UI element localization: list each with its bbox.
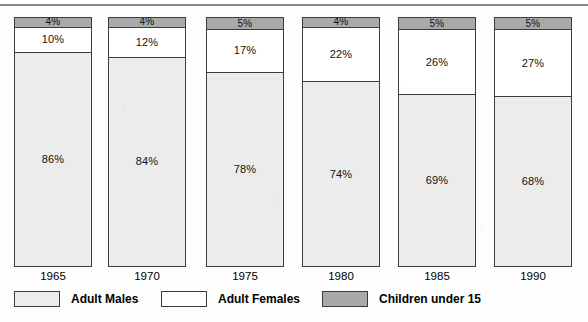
- segment-children-1980[interactable]: 4%: [303, 18, 379, 28]
- segment-adult-females-1985[interactable]: 26%: [399, 30, 475, 94]
- stacked-column-1980[interactable]: 4% 22% 74%: [302, 17, 380, 267]
- segment-adult-males-1970[interactable]: 84%: [109, 58, 185, 266]
- legend-item-adult-males[interactable]: Adult Males: [14, 290, 138, 308]
- x-tick-label-1970: 1970: [108, 269, 186, 283]
- segment-label-females-1980: 22%: [330, 49, 353, 60]
- segment-children-1985[interactable]: 5%: [399, 18, 475, 30]
- x-tick-label-1990: 1990: [494, 269, 572, 283]
- stacked-column-1975[interactable]: 5% 17% 78%: [206, 17, 284, 267]
- legend-swatch-children-icon: [322, 291, 368, 307]
- segment-adult-males-1990[interactable]: 68%: [495, 97, 571, 266]
- segment-children-1975[interactable]: 5%: [207, 18, 283, 30]
- segment-label-children-1990: 5%: [526, 19, 541, 29]
- segment-label-males-1990: 68%: [522, 176, 545, 187]
- segment-children-1970[interactable]: 4%: [109, 18, 185, 28]
- segment-label-males-1975: 78%: [234, 164, 257, 175]
- segment-adult-females-1990[interactable]: 27%: [495, 30, 571, 97]
- segment-adult-males-1985[interactable]: 69%: [399, 95, 475, 266]
- segment-adult-females-1970[interactable]: 12%: [109, 28, 185, 58]
- stacked-column-1970[interactable]: 4% 12% 84%: [108, 17, 186, 267]
- segment-adult-females-1980[interactable]: 22%: [303, 28, 379, 83]
- stacked-column-1965[interactable]: 4% 10% 86%: [14, 17, 92, 267]
- segment-label-males-1980: 74%: [330, 169, 353, 180]
- segment-label-females-1985: 26%: [426, 57, 449, 68]
- plot-area: 4% 10% 86% 4% 12% 84% 5%: [0, 17, 588, 267]
- legend-label-adult-males: Adult Males: [71, 291, 138, 307]
- stacked-bar-chart-figure: 4% 10% 86% 4% 12% 84% 5%: [0, 0, 588, 322]
- segment-label-females-1975: 17%: [234, 45, 257, 56]
- segment-adult-males-1980[interactable]: 74%: [303, 82, 379, 266]
- x-tick-label-1965: 1965: [14, 269, 92, 283]
- segment-adult-males-1965[interactable]: 86%: [15, 53, 91, 266]
- segment-label-males-1970: 84%: [136, 156, 159, 167]
- segment-label-children-1975: 5%: [238, 19, 253, 29]
- segment-label-children-1970: 4%: [140, 18, 155, 27]
- stacked-column-1985[interactable]: 5% 26% 69%: [398, 17, 476, 267]
- legend-item-children-under-15[interactable]: Children under 15: [322, 290, 481, 308]
- legend-swatch-adult-females-icon: [161, 291, 207, 307]
- legend-label-children-under-15: Children under 15: [379, 291, 481, 307]
- segment-label-males-1965: 86%: [42, 154, 65, 165]
- segment-label-children-1985: 5%: [430, 19, 445, 29]
- segment-adult-females-1975[interactable]: 17%: [207, 30, 283, 72]
- segment-label-females-1990: 27%: [522, 58, 545, 69]
- segment-label-children-1965: 4%: [46, 18, 61, 27]
- legend-swatch-adult-males-icon: [14, 291, 60, 307]
- segment-label-females-1970: 12%: [136, 37, 159, 48]
- legend-label-adult-females: Adult Females: [218, 291, 300, 307]
- segment-label-males-1985: 69%: [426, 175, 449, 186]
- x-tick-label-1980: 1980: [302, 269, 380, 283]
- segment-adult-females-1965[interactable]: 10%: [15, 28, 91, 53]
- chart-legend: Adult Males Adult Females Children under…: [0, 290, 588, 310]
- x-axis-tick-labels: 1965 1970 1975 1980 1985 1990: [0, 269, 588, 285]
- top-divider-rule: [0, 4, 588, 6]
- x-tick-label-1975: 1975: [206, 269, 284, 283]
- segment-label-females-1965: 10%: [42, 34, 65, 45]
- segment-label-children-1980: 4%: [334, 18, 349, 27]
- x-tick-label-1985: 1985: [398, 269, 476, 283]
- stacked-column-1990[interactable]: 5% 27% 68%: [494, 17, 572, 267]
- segment-adult-males-1975[interactable]: 78%: [207, 73, 283, 266]
- legend-item-adult-females[interactable]: Adult Females: [161, 290, 300, 308]
- segment-children-1965[interactable]: 4%: [15, 18, 91, 28]
- segment-children-1990[interactable]: 5%: [495, 18, 571, 30]
